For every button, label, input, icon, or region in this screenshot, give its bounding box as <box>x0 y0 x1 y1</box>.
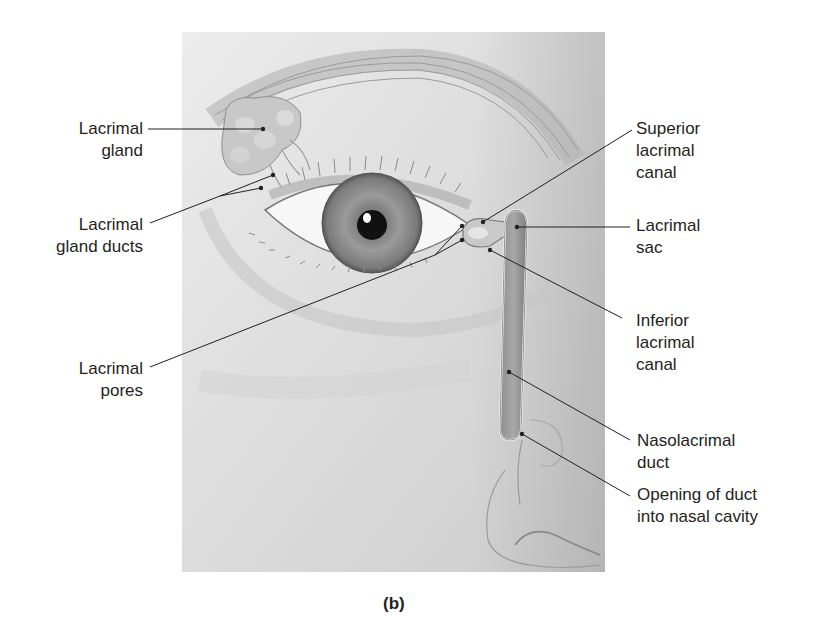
label-opening-of-duct: Opening of duct into nasal cavity <box>637 484 758 528</box>
label-line: Superior <box>636 118 700 140</box>
label-line: sac <box>636 237 700 259</box>
label-line: duct <box>637 452 735 474</box>
lacrimal-apparatus-illustration <box>0 0 821 644</box>
label-line: gland <box>40 140 143 162</box>
label-line: Nasolacrimal <box>637 430 735 452</box>
label-line: lacrimal <box>636 332 695 354</box>
label-lacrimal-pores: Lacrimal pores <box>40 358 143 402</box>
label-inferior-lacrimal-canal: Inferior lacrimal canal <box>636 310 695 376</box>
label-line: canal <box>636 162 700 184</box>
label-line: canal <box>636 354 695 376</box>
label-nasolacrimal-duct: Nasolacrimal duct <box>637 430 735 474</box>
label-line: Inferior <box>636 310 695 332</box>
label-line: gland ducts <box>20 236 143 258</box>
label-line: lacrimal <box>636 140 700 162</box>
label-line: into nasal cavity <box>637 506 758 528</box>
label-lacrimal-gland-ducts: Lacrimal gland ducts <box>20 214 143 258</box>
label-line: Lacrimal <box>636 215 700 237</box>
label-line: Lacrimal <box>40 118 143 140</box>
label-superior-lacrimal-canal: Superior lacrimal canal <box>636 118 700 184</box>
label-line: Lacrimal <box>40 358 143 380</box>
label-line: pores <box>40 380 143 402</box>
label-line: Opening of duct <box>637 484 758 506</box>
figure-caption: (b) <box>383 594 405 614</box>
label-lacrimal-gland: Lacrimal gland <box>40 118 143 162</box>
label-line: Lacrimal <box>20 214 143 236</box>
label-lacrimal-sac: Lacrimal sac <box>636 215 700 259</box>
